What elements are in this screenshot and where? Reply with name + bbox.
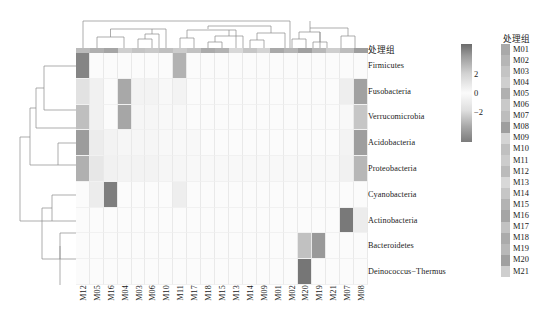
heatmap-cell: [104, 53, 118, 79]
heatmap-cell: [270, 259, 284, 285]
heatmap-cell: [243, 259, 257, 285]
heatmap-cell: [257, 53, 271, 79]
column-label: M10: [162, 285, 171, 301]
heatmap-cell: [243, 208, 257, 234]
heatmap-cell: [354, 156, 368, 182]
heatmap-cell: [298, 208, 312, 234]
column-label: M20: [301, 285, 310, 301]
heatmap-cell: [159, 233, 173, 259]
column-annotation-label: 处理组: [368, 43, 395, 55]
legend-swatch: [501, 188, 510, 199]
heatmap-cell: [326, 182, 340, 208]
legend-label: M14: [513, 190, 529, 198]
heatmap-cell: [298, 130, 312, 156]
heatmap-cell: [340, 233, 354, 259]
legend-swatch: [501, 266, 510, 277]
heatmap-cell: [215, 53, 229, 79]
column-label: M09: [260, 285, 269, 301]
heatmap-cell: [284, 182, 298, 208]
legend-swatch: [501, 255, 510, 266]
heatmap-cell: [312, 233, 326, 259]
heatmap-cell: [76, 259, 90, 285]
heatmap-cell: [118, 233, 132, 259]
heatmap-cell: [312, 259, 326, 285]
heatmap-cell: [145, 79, 159, 105]
legend-color-strip: [501, 44, 510, 277]
heatmap-cell: [76, 233, 90, 259]
heatmap-cell: [201, 208, 215, 234]
heatmap-cell: [76, 130, 90, 156]
heatmap-cell: [187, 53, 201, 79]
heatmap-cell: [312, 53, 326, 79]
heatmap-cell: [354, 105, 368, 131]
heatmap-cell: [284, 156, 298, 182]
heatmap-cell: [229, 53, 243, 79]
heatmap-figure: 处理组 FirmicutesFusobacteriaVerrucomicrobi…: [0, 0, 553, 327]
legend-swatch: [501, 222, 510, 233]
legend-swatch: [501, 55, 510, 66]
heatmap-cells: [76, 53, 368, 285]
heatmap-cell: [90, 105, 104, 131]
column-label: M04: [121, 285, 130, 301]
heatmap-cell: [340, 259, 354, 285]
heatmap-cell: [76, 156, 90, 182]
heatmap-cell: [145, 156, 159, 182]
heatmap-cell: [340, 130, 354, 156]
row-label: Actinobacteria: [368, 217, 418, 225]
heatmap-cell: [215, 79, 229, 105]
heatmap-cell: [132, 130, 146, 156]
column-label: M17: [190, 285, 199, 301]
heatmap-cell: [159, 105, 173, 131]
heatmap-cell: [118, 105, 132, 131]
legend-swatch: [501, 166, 510, 177]
heatmap-cell: [215, 156, 229, 182]
heatmap-cell: [187, 233, 201, 259]
heatmap-cell: [243, 233, 257, 259]
heatmap-cell: [201, 130, 215, 156]
heatmap-cell: [298, 105, 312, 131]
legend-swatch: [501, 111, 510, 122]
heatmap-cell: [284, 208, 298, 234]
heatmap-cell: [229, 233, 243, 259]
row-label: Proteobacteria: [368, 165, 417, 173]
legend-label: M12: [513, 168, 529, 176]
heatmap-cell: [215, 130, 229, 156]
heatmap-cell: [76, 79, 90, 105]
legend-label: M16: [513, 212, 529, 220]
heatmap-cell: [215, 182, 229, 208]
heatmap-cell: [76, 53, 90, 79]
heatmap-cell: [215, 259, 229, 285]
legend-label: M07: [513, 112, 529, 120]
legend-swatch: [501, 122, 510, 133]
heatmap-cell: [118, 156, 132, 182]
legend-swatch: [501, 66, 510, 77]
row-label: Verrucomicrobia: [368, 113, 425, 121]
legend-label: M01: [513, 46, 529, 54]
heatmap-cell: [201, 79, 215, 105]
heatmap-cell: [270, 53, 284, 79]
heatmap-cell: [284, 53, 298, 79]
heatmap-cell: [326, 208, 340, 234]
heatmap-cell: [90, 53, 104, 79]
heatmap-cell: [118, 130, 132, 156]
heatmap-cell: [340, 53, 354, 79]
legend-label: M04: [513, 79, 529, 87]
heatmap-cell: [201, 156, 215, 182]
heatmap-cell: [187, 259, 201, 285]
legend-label: M13: [513, 179, 529, 187]
heatmap-cell: [229, 130, 243, 156]
heatmap-cell: [229, 208, 243, 234]
heatmap-cell: [354, 182, 368, 208]
heatmap-cell: [340, 105, 354, 131]
heatmap-cell: [173, 53, 187, 79]
heatmap-cell: [104, 79, 118, 105]
legend-swatch: [501, 99, 510, 110]
heatmap-cell: [159, 182, 173, 208]
color-scale-ticks: 20−2: [474, 44, 498, 142]
legend-label: M21: [513, 268, 529, 276]
heatmap-cell: [145, 208, 159, 234]
column-label: M01: [274, 285, 283, 301]
heatmap-cell: [173, 259, 187, 285]
heatmap-cell: [118, 182, 132, 208]
column-label: M11: [176, 285, 185, 300]
